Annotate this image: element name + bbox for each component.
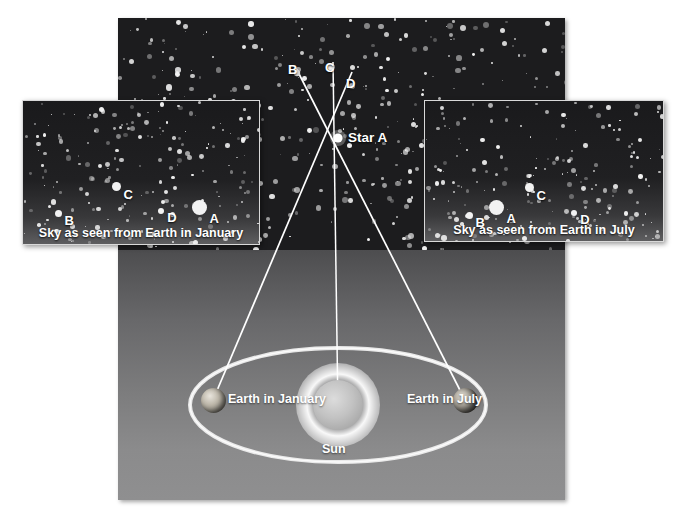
inset-january-caption: Sky as seen from Earth in January (23, 226, 259, 240)
star-a-halo (330, 130, 346, 146)
inset-star-label-a: A (210, 211, 219, 226)
inset-july-starfield (425, 101, 663, 241)
inset-january-background (23, 101, 259, 244)
inset-star-c (112, 182, 121, 191)
label-sun: Sun (322, 442, 346, 456)
inset-star-a (192, 200, 207, 215)
inset-star-b (55, 210, 62, 217)
label-earth-july: Earth in July (407, 392, 482, 406)
inset-july-background (425, 101, 663, 241)
inset-january: BCDA Sky as seen from Earth in January (22, 100, 260, 245)
inset-star-label-c: C (124, 187, 133, 202)
label-star-b: B (288, 62, 297, 77)
inset-july-caption: Sky as seen from Earth in July (425, 223, 663, 237)
label-star-a: Star A (348, 130, 387, 145)
label-earth-january: Earth in January (228, 392, 326, 406)
inset-star-c (525, 183, 534, 192)
earth-january (201, 388, 226, 413)
figure-stage: B C D Star A Earth in January Earth in J… (0, 0, 677, 521)
label-star-c: C (325, 60, 334, 75)
label-star-d: D (346, 76, 355, 91)
inset-star-a (489, 200, 504, 215)
inset-star-label-c: C (537, 188, 546, 203)
inset-january-starfield (23, 101, 259, 244)
inset-star-b (466, 212, 473, 219)
sight-line-sun (333, 62, 338, 412)
inset-star-label-d: D (167, 210, 176, 225)
inset-july: BACD Sky as seen from Earth in July (424, 100, 664, 242)
